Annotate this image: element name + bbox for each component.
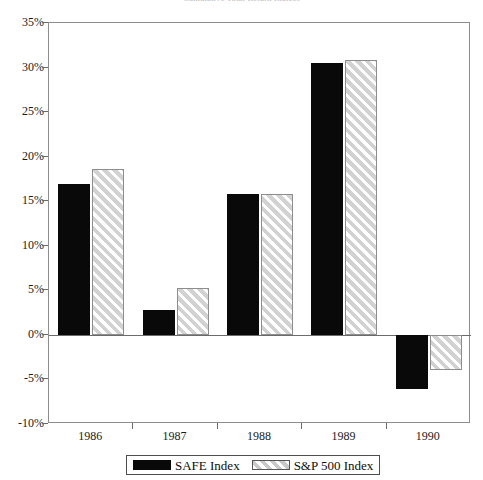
bar-safe-index-1987 — [143, 310, 175, 335]
legend-label: S&P 500 Index — [294, 459, 374, 472]
bar-sp500-index-1988 — [261, 194, 293, 335]
x-axis-tick-mark — [217, 423, 218, 429]
bar-sp500-index-1989 — [345, 60, 377, 335]
legend-swatch-icon — [252, 460, 290, 470]
y-axis-tick-label: -5% — [2, 372, 44, 384]
bar-sp500-index-1990 — [430, 335, 462, 370]
y-axis: 35%30%25%20%15%10%5%0%-5%-10% — [0, 0, 44, 480]
y-axis-tick-label: 35% — [2, 16, 44, 28]
y-axis-tick-mark — [42, 423, 48, 424]
chart-legend: SAFE IndexS&P 500 Index — [126, 455, 380, 475]
legend-entry-safe-index: SAFE Index — [133, 459, 252, 472]
y-axis-tick-label: 20% — [2, 150, 44, 162]
y-axis-tick-label: 0% — [2, 328, 44, 340]
y-axis-tick-label: -10% — [2, 417, 44, 429]
y-axis-tick-label: 10% — [2, 239, 44, 251]
x-axis-tick-mark — [386, 423, 387, 429]
x-axis-tick-label: 1990 — [386, 430, 470, 443]
plot-area — [48, 22, 470, 423]
bar-safe-index-1989 — [311, 63, 343, 335]
bar-safe-index-1986 — [58, 184, 90, 335]
y-axis-tick-label: 15% — [2, 194, 44, 206]
bar-safe-index-1990 — [396, 335, 428, 389]
bar-chart: Cumulative Total Return Indices 35%30%25… — [0, 0, 483, 480]
y-axis-tick-label: 25% — [2, 105, 44, 117]
legend-entry-sp500-index: S&P 500 Index — [252, 459, 374, 472]
x-axis-tick-label: 1989 — [301, 430, 385, 443]
chart-title: Cumulative Total Return Indices — [0, 0, 483, 3]
bar-safe-index-1988 — [227, 194, 259, 335]
y-axis-tick-label: 30% — [2, 61, 44, 73]
y-axis-tick-label: 5% — [2, 283, 44, 295]
legend-swatch-icon — [133, 460, 171, 470]
bar-sp500-index-1986 — [92, 169, 124, 335]
x-axis-tick-label: 1987 — [133, 430, 217, 443]
x-axis-tick-label: 1988 — [217, 430, 301, 443]
bar-sp500-index-1987 — [177, 288, 209, 335]
legend-label: SAFE Index — [175, 459, 240, 472]
x-axis-tick-mark — [132, 423, 133, 429]
x-axis-tick-mark — [301, 423, 302, 429]
x-axis-tick-label: 1986 — [48, 430, 132, 443]
